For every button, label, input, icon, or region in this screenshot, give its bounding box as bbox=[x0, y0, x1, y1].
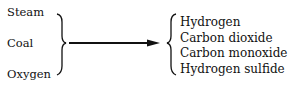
right-brace bbox=[167, 14, 176, 75]
output-carbon-dioxide: Carbon dioxide bbox=[180, 32, 273, 44]
output-carbon-monoxide: Carbon monoxide bbox=[180, 47, 287, 59]
output-hydrogen: Hydrogen bbox=[180, 16, 240, 28]
left-brace bbox=[57, 14, 66, 75]
output-hydrogen-sulfide: Hydrogen sulfide bbox=[180, 63, 285, 75]
arrow-head-icon bbox=[147, 40, 160, 47]
